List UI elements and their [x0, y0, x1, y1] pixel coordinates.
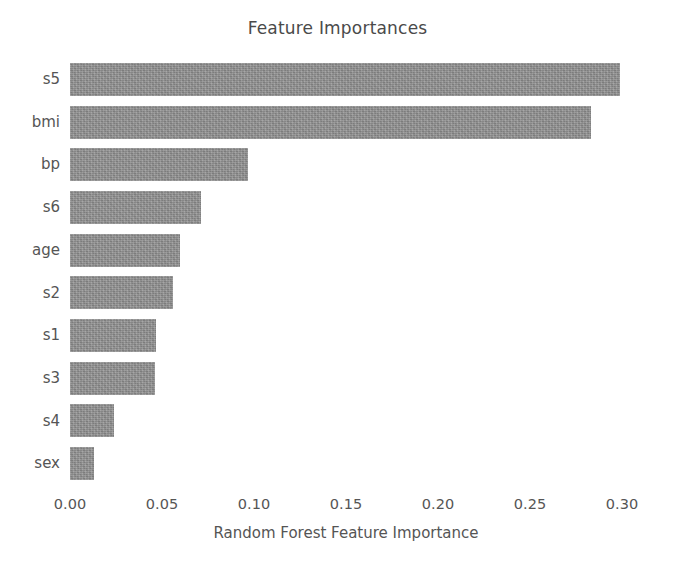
- y-axis-tick-label: s2: [43, 272, 60, 315]
- x-axis-label: Random Forest Feature Importance: [70, 524, 622, 542]
- bar-sex: [70, 447, 94, 480]
- y-axis-tick-label: bp: [41, 143, 60, 186]
- x-axis-tick-label: 0.20: [422, 496, 454, 512]
- chart-title: Feature Importances: [0, 18, 675, 38]
- bar-row: s3: [70, 357, 622, 400]
- bar-s3: [70, 362, 155, 395]
- bar-s1: [70, 319, 156, 352]
- bar-row: s5: [70, 58, 622, 101]
- y-axis-tick-label: bmi: [32, 101, 60, 144]
- bar-row: s4: [70, 400, 622, 443]
- bar-row: sex: [70, 442, 622, 485]
- x-axis-tick-label: 0.30: [606, 496, 638, 512]
- bar-row: bmi: [70, 101, 622, 144]
- bar-row: s2: [70, 272, 622, 315]
- x-axis: 0.000.050.100.150.200.250.30: [70, 496, 622, 518]
- bar-bmi: [70, 106, 591, 139]
- bar-row: s6: [70, 186, 622, 229]
- y-axis-tick-label: s1: [43, 314, 60, 357]
- bar-s5: [70, 63, 620, 96]
- bar-row: bp: [70, 143, 622, 186]
- x-axis-tick-label: 0.15: [330, 496, 362, 512]
- bar-row: s1: [70, 314, 622, 357]
- x-axis-tick-label: 0.25: [514, 496, 546, 512]
- y-axis-tick-label: s3: [43, 357, 60, 400]
- y-axis-tick-label: s6: [43, 186, 60, 229]
- bar-row: age: [70, 229, 622, 272]
- bar-s6: [70, 191, 201, 224]
- y-axis-tick-label: age: [32, 229, 60, 272]
- y-axis-tick-label: s4: [43, 400, 60, 443]
- y-axis-tick-label: s5: [43, 58, 60, 101]
- bar-bp: [70, 148, 248, 181]
- bar-s2: [70, 276, 173, 309]
- x-axis-tick-label: 0.10: [238, 496, 270, 512]
- bar-s4: [70, 404, 114, 437]
- x-axis-tick-label: 0.00: [54, 496, 86, 512]
- plot-area: s5bmibps6ages2s1s3s4sex: [70, 58, 622, 485]
- bar-age: [70, 234, 180, 267]
- feature-importances-chart: Feature Importances s5bmibps6ages2s1s3s4…: [0, 0, 675, 572]
- x-axis-tick-label: 0.05: [146, 496, 178, 512]
- y-axis-tick-label: sex: [34, 442, 60, 485]
